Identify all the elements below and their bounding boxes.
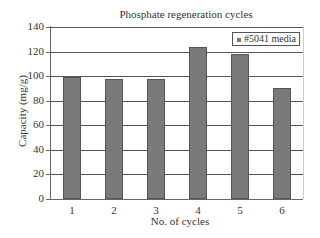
x-tick-label: 1 bbox=[62, 204, 82, 216]
plot-area bbox=[51, 27, 304, 199]
gridline bbox=[51, 101, 303, 102]
y-tick-mark bbox=[46, 52, 50, 53]
y-axis bbox=[50, 26, 51, 199]
chart-title: Phosphate regeneration cycles bbox=[26, 8, 320, 20]
y-tick-label: 120 bbox=[14, 45, 44, 57]
bar-cycle-2 bbox=[105, 79, 123, 199]
x-axis-label: No. of cycles bbox=[130, 215, 230, 227]
y-tick-mark bbox=[46, 125, 50, 126]
bar-cycle-1 bbox=[63, 77, 81, 199]
gridline bbox=[51, 150, 303, 151]
x-tick-label: 5 bbox=[230, 204, 250, 216]
y-tick-mark bbox=[46, 174, 50, 175]
y-tick-mark bbox=[46, 76, 50, 77]
y-tick-mark bbox=[46, 150, 50, 151]
legend: #5041 media bbox=[232, 32, 300, 46]
gridline bbox=[51, 27, 303, 28]
y-tick-mark bbox=[46, 199, 50, 200]
gridline bbox=[51, 125, 303, 126]
x-tick-label: 2 bbox=[104, 204, 124, 216]
bar-cycle-6 bbox=[273, 88, 291, 199]
y-tick-label: 20 bbox=[14, 167, 44, 179]
legend-label: #5041 media bbox=[244, 33, 296, 44]
y-tick-label: 0 bbox=[14, 192, 44, 204]
legend-swatch bbox=[237, 38, 241, 42]
bar-cycle-5 bbox=[231, 54, 249, 199]
x-tick-label: 6 bbox=[272, 204, 292, 216]
y-tick-label: 140 bbox=[14, 20, 44, 32]
y-axis-label: Capacity (mg/g) bbox=[16, 71, 28, 151]
gridline bbox=[51, 174, 303, 175]
x-axis bbox=[50, 199, 303, 200]
gridline bbox=[51, 76, 303, 77]
bar-cycle-4 bbox=[189, 47, 207, 199]
gridline bbox=[51, 52, 303, 53]
bar-cycle-3 bbox=[147, 79, 165, 199]
y-tick-mark bbox=[46, 101, 50, 102]
y-tick-mark bbox=[46, 27, 50, 28]
